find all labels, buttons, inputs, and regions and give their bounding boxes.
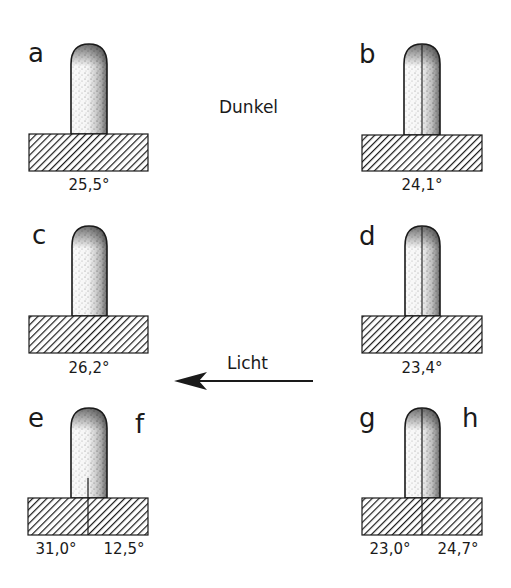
panel-label-c: c <box>32 222 46 248</box>
value-e: 31,0° <box>36 542 77 557</box>
value-h: 24,7° <box>438 542 479 557</box>
value-a: 25,5° <box>69 178 110 193</box>
value-g: 23,0° <box>370 542 411 557</box>
agar-block <box>29 134 148 171</box>
figure-drawings <box>0 0 511 588</box>
light-arrow <box>174 372 313 390</box>
value-f: 12,5° <box>104 542 145 557</box>
value-c: 26,2° <box>69 361 110 376</box>
dark-condition-label: Dunkel <box>219 99 278 116</box>
panel-d-drawing <box>362 226 482 353</box>
light-condition-label: Licht <box>227 355 268 372</box>
panel-label-a: a <box>28 40 44 66</box>
panel-label-f: f <box>135 411 144 437</box>
panel-c-drawing <box>29 226 148 353</box>
panel-ef-drawing <box>28 408 148 535</box>
phototropism-diagram: a b c d e f g h Dunkel Licht 25,5° 24,1°… <box>0 0 511 588</box>
panel-label-g: g <box>359 405 376 431</box>
panel-b-drawing <box>362 44 482 171</box>
value-d: 23,4° <box>402 361 443 376</box>
panel-label-b: b <box>359 41 376 67</box>
panel-label-d: d <box>359 223 376 249</box>
panel-label-e: e <box>28 405 44 431</box>
value-b: 24,1° <box>402 178 443 193</box>
panel-label-h: h <box>462 405 478 431</box>
panel-a-drawing <box>29 44 148 171</box>
